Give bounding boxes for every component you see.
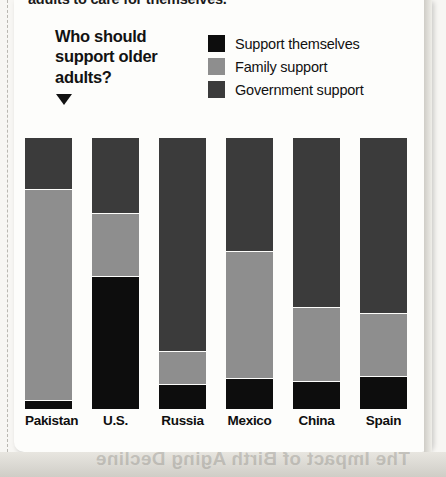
cutoff-headline-text: adults to care for themselves. (28, 0, 358, 7)
chart-title-line-3: adults? (55, 67, 205, 87)
bar-segment-self (159, 384, 206, 409)
legend-label-government: Government support (235, 82, 364, 98)
x-axis-label: China (293, 413, 340, 428)
legend-swatch-icon-family (208, 58, 225, 75)
stacked-bar-plot-area (25, 138, 407, 409)
bar-column (226, 138, 273, 409)
page-gutter-dashed-line (7, 0, 8, 452)
screenshot-page: adults to care for themselves. The Impac… (0, 0, 446, 477)
legend-item-government: Government support (208, 79, 364, 100)
bar-column (360, 138, 407, 409)
x-axis-label: U.S. (92, 413, 139, 428)
bar-segment-government (25, 138, 72, 189)
bar-segment-self (360, 376, 407, 409)
bar-segment-family (360, 313, 407, 376)
bar-segment-self (293, 381, 340, 409)
bar-segment-self (25, 400, 72, 409)
bar-segment-government (92, 138, 139, 213)
bar-column (25, 138, 72, 409)
bar-segment-family (226, 251, 273, 378)
bar-segment-family (92, 213, 139, 276)
x-axis-labels: PakistanU.S.RussiaMexicoChinaSpain (25, 413, 407, 428)
chart-title-line-1: Who should (55, 26, 205, 46)
bar-segment-government (293, 138, 340, 307)
chart-legend: Support themselves Family support Govern… (208, 33, 364, 102)
legend-label-self: Support themselves (235, 36, 360, 52)
bar-column (293, 138, 340, 409)
x-axis-label: Russia (159, 413, 206, 428)
chart-title: Who should support older adults? (55, 26, 205, 87)
bar-segment-family (293, 307, 340, 381)
x-axis-label: Mexico (226, 413, 273, 428)
legend-item-self: Support themselves (208, 33, 364, 54)
legend-label-family: Family support (235, 59, 327, 75)
chart-title-line-2: support older (55, 46, 205, 66)
legend-swatch-icon-self (208, 35, 225, 52)
page-bottom-shadow (0, 452, 446, 477)
bar-segment-government (360, 138, 407, 313)
bar-segment-government (159, 138, 206, 351)
bar-column (159, 138, 206, 409)
x-axis-label: Pakistan (25, 413, 72, 428)
triangle-down-icon (56, 94, 72, 105)
page-right-edge (424, 0, 432, 452)
legend-swatch-icon-government (208, 81, 225, 98)
bar-segment-self (226, 378, 273, 409)
bar-column (92, 138, 139, 409)
bar-segment-self (92, 276, 139, 409)
bar-segment-family (25, 189, 72, 400)
bar-segment-government (226, 138, 273, 251)
legend-item-family: Family support (208, 56, 364, 77)
bar-segment-family (159, 351, 206, 384)
x-axis-label: Spain (360, 413, 407, 428)
